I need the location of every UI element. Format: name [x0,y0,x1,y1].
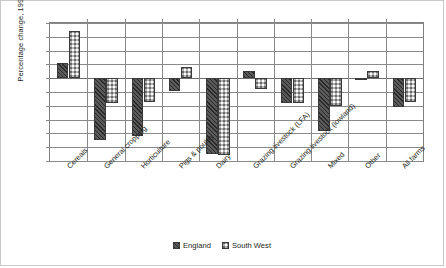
bar-england [355,78,367,80]
x-axis-tick [386,19,387,23]
y-axis-tick [46,133,50,134]
gridline-vertical [386,23,387,161]
y-axis-tick [46,23,50,24]
bar-england [169,78,181,90]
y-axis-tick [46,92,50,93]
x-axis-tick [274,19,275,23]
bar-england [94,78,106,140]
bar-south-west [144,78,156,101]
plot-area: 403020100-10-20-30-40-50-60 [49,22,424,162]
x-axis-tick [199,19,200,23]
x-axis-tick [87,19,88,23]
bar-england [57,63,69,78]
y-axis-tick [46,37,50,38]
bar-south-west [69,31,81,78]
bar-south-west [181,67,193,78]
bar-england [281,78,293,103]
bar-south-west [106,78,118,103]
legend-swatch-south-west [222,242,229,249]
y-axis-tick [46,51,50,52]
y-axis-title: Percentage change, 1995–2009 [16,0,25,99]
bar-england [243,71,255,78]
legend-label-england: England [183,241,211,250]
x-axis-tick [162,19,163,23]
legend-label-south-west: South West [232,241,271,250]
y-axis-tick [46,106,50,107]
chart-figure: Percentage change, 1995–2009 403020100-1… [0,0,444,266]
bar-south-west [330,78,342,106]
x-axis-tick [237,19,238,23]
bar-south-west [367,71,379,78]
legend-item-south-west: South West [222,241,271,250]
legend-swatch-england [173,242,180,249]
bar-south-west [255,78,267,89]
legend-item-england: England [173,241,211,250]
x-axis-tick [348,19,349,23]
gridline-vertical [348,23,349,161]
x-axis-tick [125,19,126,23]
y-axis-tick [46,64,50,65]
chart-legend: England South West [1,241,443,250]
y-axis-tick [46,120,50,121]
y-axis-tick [46,78,50,79]
bar-south-west [218,78,230,155]
y-axis-tick [46,161,50,162]
bar-england [393,78,405,107]
bar-south-west [405,78,417,101]
bar-south-west [293,78,305,103]
y-axis-tick [46,147,50,148]
gridline-vertical [237,23,238,161]
gridline-vertical [87,23,88,161]
x-axis-tick [311,19,312,23]
